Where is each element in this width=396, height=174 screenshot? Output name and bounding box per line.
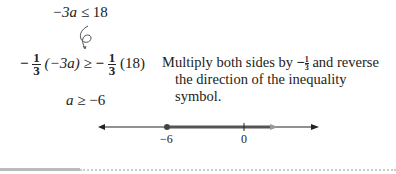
closed-dot-icon (164, 124, 170, 130)
inequality-solution: a ≥ −6 (66, 92, 105, 109)
tick-label-neg6: −6 (160, 132, 173, 147)
step1-rhs: 18 (93, 4, 108, 20)
inequality-step-1: −3a ≤ 18 (52, 4, 108, 21)
right-arrow-icon (311, 124, 319, 130)
step2-rhs-expr: (18) (120, 55, 145, 71)
step1-op: ≤ (81, 4, 89, 20)
solution-rhs: −6 (89, 92, 105, 108)
number-line: −6 0 (96, 118, 321, 148)
left-arrow-icon (98, 124, 105, 130)
solution-lhs: a (66, 92, 74, 108)
solution-op: ≥ (77, 92, 85, 108)
step2-op: ≥ (83, 55, 91, 71)
number-line-graphic (96, 118, 321, 148)
explanation-text: Multiply both sides by −13 and reverse t… (162, 54, 396, 105)
explanation-line-2: the direction of the inequality symbol. (162, 71, 396, 105)
step2-lhs-expr: (−3a) (45, 55, 80, 71)
handwritten-annotation (76, 24, 98, 54)
handwritten-six-icon (76, 24, 98, 50)
step2-rhs-sign: − (95, 55, 104, 71)
step2-lhs-fraction: 1 3 (32, 52, 41, 77)
inequality-step-2: − 1 3 (−3a) ≥ − 1 3 (18) (20, 52, 145, 77)
step2-rhs-fraction: 1 3 (108, 52, 117, 77)
solution-arrow-icon (270, 124, 278, 130)
explanation-line-1: Multiply both sides by −13 and reverse (162, 54, 396, 71)
step2-lhs-sign: − (20, 55, 29, 71)
page-divider (0, 168, 396, 171)
tick-label-0: 0 (241, 132, 247, 147)
step1-lhs: −3a (52, 4, 77, 20)
